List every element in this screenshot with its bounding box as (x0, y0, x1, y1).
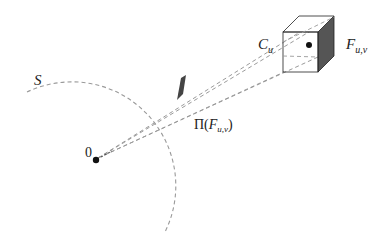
projection-label-prefix: Π( (194, 117, 209, 133)
projection-rays (98, 17, 334, 158)
cube-label: Cu (258, 36, 273, 55)
projection-label-sub: u,v (217, 124, 228, 134)
face-center-point (306, 42, 312, 48)
projection-label: Π(Fu,v) (194, 117, 233, 134)
origin-label: 0 (85, 145, 92, 160)
sphere-label: S (34, 72, 42, 88)
origin-point (93, 157, 99, 163)
cube-label-sub: u (268, 44, 273, 55)
face-label-sub: u,v (355, 44, 368, 55)
cube (283, 16, 334, 72)
projection-label-face: F (208, 117, 218, 132)
diagram-canvas: S 0 Cu Fu,v Π(Fu,v) (0, 0, 385, 243)
cube-face-front (283, 32, 318, 72)
projected-patch (177, 75, 186, 100)
face-label: Fu,v (345, 36, 368, 55)
projection-label-suffix: ) (228, 117, 233, 133)
